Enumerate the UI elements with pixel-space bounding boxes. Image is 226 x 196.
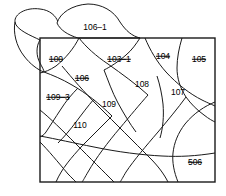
parcel-label-109-3: 109–3	[46, 93, 70, 102]
parcel-label-103-1: 103–1	[107, 55, 131, 64]
mesh-line-p	[40, 136, 215, 156]
parcel-label-105: 105	[192, 55, 206, 64]
parcel-label-109: 109	[102, 100, 116, 109]
parcel-label-108: 108	[135, 80, 149, 89]
figure-canvas: 106–1 100 103–1 104 105 106 108 107 109–…	[0, 0, 226, 196]
parcel-label-106-1: 106–1	[83, 23, 107, 32]
mesh-line-l	[40, 142, 76, 182]
mesh-line-q	[173, 102, 215, 182]
outer-lobe-shape	[15, 9, 58, 40]
parcel-label-107: 107	[171, 88, 185, 97]
parcel-label-110: 110	[73, 121, 87, 130]
parcel-label-104: 104	[156, 52, 170, 61]
parcel-label-106: 106	[75, 74, 89, 83]
parcel-label-100: 100	[49, 55, 63, 64]
parcel-label-506: 506	[188, 158, 202, 167]
